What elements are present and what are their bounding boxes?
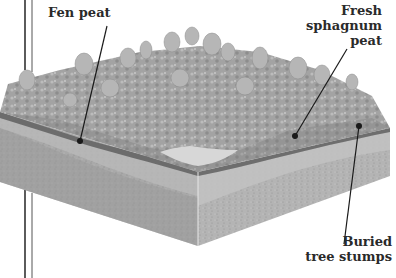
leader-dot-buried-stumps xyxy=(357,124,362,129)
leader-dot-fen-peat xyxy=(78,139,83,144)
peat-bog-diagram: Fen peat Fresh sphagnum peat Buried tree… xyxy=(0,0,396,278)
label-buried-tree-stumps: Buried tree stumps xyxy=(305,234,392,264)
label-fresh-sphagnum-peat: Fresh sphagnum peat xyxy=(306,3,382,48)
label-fen-peat: Fen peat xyxy=(48,5,111,20)
leader-dot-fresh-sphagnum xyxy=(293,134,298,139)
